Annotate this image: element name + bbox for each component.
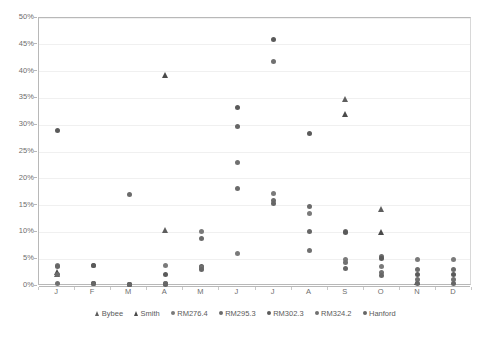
data-point [55,272,60,277]
y-tick-label: 25% [0,147,34,155]
data-point [54,271,60,277]
data-point [235,160,240,165]
data-point [342,111,348,117]
data-point [199,267,204,272]
data-point [451,267,456,272]
y-tick-label: 10% [0,227,34,235]
legend-label: Bybee [102,309,123,318]
y-tick-mark [34,204,37,205]
x-tick-label: A [299,287,319,297]
y-axis: 0%5%10%15%20%25%30%35%40%45%50% [0,17,34,285]
y-tick-label: 40% [0,67,34,75]
triangle-marker-icon [134,311,138,316]
y-tick-label: 20% [0,174,34,182]
data-point [451,277,456,282]
circle-marker-icon [315,311,319,315]
data-point [163,272,168,277]
scatter-chart: 0%5%10%15%20%25%30%35%40%45%50% JFMAMJJA… [0,0,491,338]
data-point [91,263,96,268]
y-tick-mark [34,70,37,71]
data-point [342,96,348,102]
data-point [379,273,384,278]
data-point [379,264,384,269]
data-point [199,264,204,269]
y-tick-mark [34,17,37,18]
legend-item[interactable]: RM302.3 [267,309,304,318]
y-tick-mark [34,177,37,178]
data-point [343,260,348,265]
legend-label: RM276.4 [177,309,207,318]
data-point [271,191,276,196]
data-point [91,263,96,268]
x-tick-label: F [82,287,102,297]
x-tick-label: S [335,287,355,297]
data-point [55,128,60,133]
gridline [39,259,470,260]
gridline [39,205,470,206]
x-tick-label: J [263,287,283,297]
data-point [235,251,240,256]
legend-label: Hanford [369,309,396,318]
legend-item[interactable]: RM324.2 [315,309,352,318]
circle-marker-icon [267,311,271,315]
data-point [307,211,312,216]
data-point [163,263,168,268]
y-tick-label: 30% [0,120,34,128]
x-tick-label: N [407,287,427,297]
data-point [271,37,276,42]
x-tick-mark [363,287,364,290]
x-tick-mark [291,287,292,290]
data-point [378,206,384,212]
y-tick-mark [34,43,37,44]
y-tick-label: 35% [0,93,34,101]
x-tick-label: M [190,287,210,297]
x-tick-mark [255,287,256,290]
gridline [39,98,470,99]
x-tick-mark [110,287,111,290]
x-tick-mark [74,287,75,290]
data-point [199,236,204,241]
data-point [379,270,384,275]
y-tick-mark [34,124,37,125]
legend-item[interactable]: Bybee [95,309,123,318]
legend-label: RM302.3 [273,309,303,318]
gridline [39,232,470,233]
plot-area [38,17,471,285]
x-tick-label: A [154,287,174,297]
x-tick-mark [471,287,472,290]
y-tick-label: 15% [0,201,34,209]
legend-item[interactable]: Hanford [363,309,396,318]
data-point [127,192,132,197]
data-point [415,267,420,272]
x-tick-mark [327,287,328,290]
legend-label: RM295.3 [225,309,255,318]
x-tick-label: O [371,287,391,297]
data-point [55,264,60,269]
data-point [271,59,276,64]
data-point [235,105,240,110]
triangle-marker-icon [95,311,99,316]
legend-item[interactable]: RM295.3 [219,309,256,318]
chart-legend: BybeeSmithRM276.4RM295.3RM302.3RM324.2Ha… [0,305,491,321]
data-point [199,265,204,270]
gridline [39,44,470,45]
gridline [39,178,470,179]
data-point [307,248,312,253]
y-tick-label: 5% [0,254,34,262]
circle-marker-icon [363,311,367,315]
legend-item[interactable]: Smith [134,309,160,318]
x-tick-label: M [118,287,138,297]
data-point [271,198,276,203]
legend-item[interactable]: RM276.4 [171,309,208,318]
x-tick-mark [399,287,400,290]
x-tick-mark [435,287,436,290]
gridline [39,18,470,19]
y-tick-label: 45% [0,40,34,48]
y-tick-mark [34,97,37,98]
data-point [415,277,420,282]
data-point [343,266,348,271]
data-point [55,263,60,268]
y-tick-mark [34,258,37,259]
data-point [414,279,420,285]
data-point [451,272,456,277]
